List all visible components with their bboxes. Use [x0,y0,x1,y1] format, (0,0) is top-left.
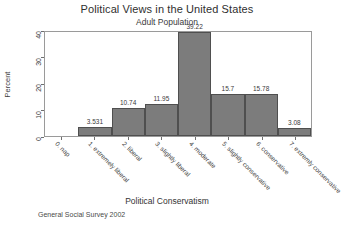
bar [112,108,145,136]
bar-value-label: 10.74 [120,99,136,106]
x-axis-label: Political Conservatism [0,196,334,206]
chart-subtitle: Adult Population [0,17,334,27]
bar-slot: 39.22 [178,32,211,136]
x-axis-tick [44,137,78,141]
y-axis: 010203040 [0,31,44,137]
bar [145,104,178,136]
x-category-label: 3. slightly liberal [154,140,192,178]
x-axis-ticks [44,137,312,141]
bar-value-label: 15.78 [253,85,269,92]
bar-value-label: 11.95 [153,95,169,102]
x-category-label: 4. moderate [188,140,217,169]
bar [278,128,311,136]
y-tick-label: 30 [36,58,43,66]
bar-value-label: 39.22 [186,23,202,30]
x-axis-tick [111,137,145,141]
plot-area: 3.53110.7411.9539.2215.715.783.08 [44,31,312,137]
chart-footnote: General Social Survey 2002 [38,211,125,218]
bar [245,94,278,136]
x-axis-tick [145,137,179,141]
x-tick-mark [94,137,95,140]
x-tick-mark [295,137,296,140]
x-tick-mark [161,137,162,140]
x-category-label: 0. nap [54,140,72,158]
x-tick-mark [195,137,196,140]
x-axis-tick [245,137,279,141]
x-category-label: 2. liberal [121,140,143,162]
bar-slot: 11.95 [145,32,178,136]
bar-slot: 3.531 [78,32,111,136]
y-tick-label: 0 [36,137,43,141]
x-axis-tick [178,137,212,141]
bar-slot: 15.7 [211,32,244,136]
x-tick-mark [61,137,62,140]
bar-value-label: 3.531 [87,118,103,125]
bar-value-label: 3.08 [288,119,301,126]
x-axis-tick [212,137,246,141]
x-tick-mark [262,137,263,140]
x-tick-mark [128,137,129,140]
bar [78,127,111,136]
bar-value-label: 15.7 [222,85,235,92]
bar [178,32,211,136]
x-category-label: 6. conservative [255,140,291,176]
bar-slot: 15.78 [245,32,278,136]
x-category-label: 7. extremly conservative [288,140,343,195]
chart-title: Political Views in the United States [0,3,334,15]
y-tick-label: 20 [36,84,43,92]
x-tick-mark [228,137,229,140]
bar [211,94,244,136]
bar-slot: 3.08 [278,32,311,136]
y-tick-label: 40 [36,31,43,39]
bar-series: 3.53110.7411.9539.2215.715.783.08 [45,32,311,136]
y-tick-label: 10 [36,111,43,119]
x-axis-tick [279,137,313,141]
bar-slot: 10.74 [112,32,145,136]
x-axis-tick [78,137,112,141]
bar-slot [45,32,78,136]
